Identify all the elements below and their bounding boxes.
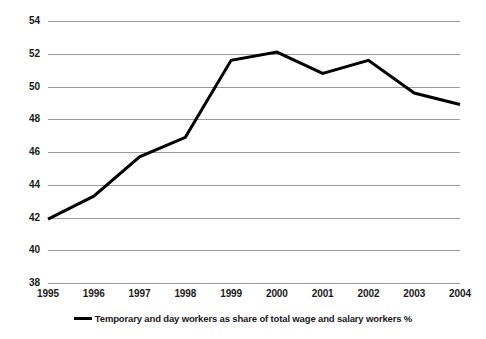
y-tick-label-38: 38 <box>6 278 40 288</box>
x-tick-label-2000: 2000 <box>255 288 299 300</box>
chart-legend: Temporary and day workers as share of to… <box>0 313 486 324</box>
legend-label: Temporary and day workers as share of to… <box>95 313 412 324</box>
plot-area <box>48 21 460 283</box>
y-tick-label-52: 52 <box>6 49 40 59</box>
x-tick-label-1995: 1995 <box>26 288 70 300</box>
x-tick-label-2002: 2002 <box>346 288 390 300</box>
y-tick-label-50: 50 <box>6 82 40 92</box>
x-tick-label-1999: 1999 <box>209 288 253 300</box>
x-tick-label-2004: 2004 <box>438 288 482 300</box>
line-chart: 384042444648505254 199519961997199819992… <box>0 0 486 339</box>
legend-line-swatch <box>74 317 92 320</box>
x-axis: 1995199619971998199920002001200220032004 <box>48 288 460 302</box>
series-layer <box>48 21 460 283</box>
x-tick-label-2003: 2003 <box>392 288 436 300</box>
x-tick-label-1997: 1997 <box>118 288 162 300</box>
series-line-temporary-day-workers <box>48 52 460 219</box>
y-tick-label-42: 42 <box>6 213 40 223</box>
y-tick-label-54: 54 <box>6 16 40 26</box>
x-tick-label-1996: 1996 <box>72 288 116 300</box>
y-tick-label-40: 40 <box>6 245 40 255</box>
y-tick-label-48: 48 <box>6 114 40 124</box>
x-tick-label-2001: 2001 <box>301 288 345 300</box>
x-tick-label-1998: 1998 <box>163 288 207 300</box>
gridline-38 <box>48 283 460 284</box>
y-tick-label-44: 44 <box>6 180 40 190</box>
y-tick-label-46: 46 <box>6 147 40 157</box>
y-axis: 384042444648505254 <box>0 21 40 283</box>
